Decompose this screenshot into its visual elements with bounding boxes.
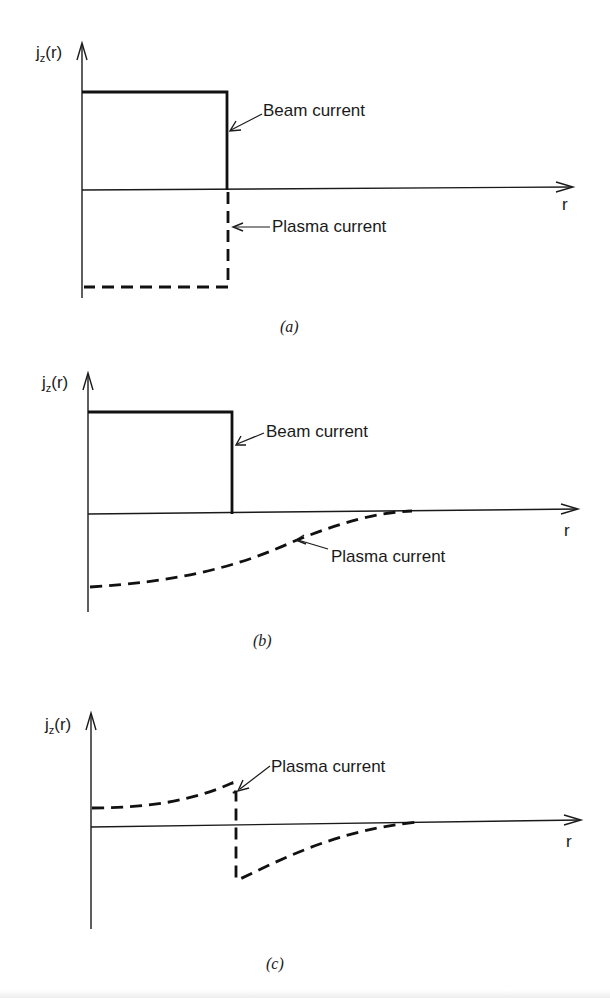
pointer-arrowhead-icon: [238, 780, 249, 791]
plasma-current-pointer: [240, 766, 270, 789]
plasma-current-label: Plasma current: [271, 757, 386, 776]
y-axis-label: jz(r): [41, 373, 68, 394]
beam-current-label: Beam current: [263, 101, 365, 120]
plasma-current-curve: [92, 783, 418, 879]
panel-caption: (c): [266, 955, 284, 973]
beam-current-curve: [82, 92, 227, 190]
r-axis: [91, 820, 580, 827]
plasma-current-curve: [84, 192, 228, 287]
r-axis-label: r: [566, 832, 572, 851]
r-axis-label: r: [562, 195, 568, 214]
panel-a: jz(r) r Beam current Plasma current (a): [35, 43, 573, 336]
y-axis-label: jz(r): [44, 715, 71, 736]
r-axis: [82, 187, 572, 190]
y-axis-label: jz(r): [35, 43, 62, 64]
beam-current-label: Beam current: [266, 422, 368, 441]
panel-caption: (a): [280, 318, 299, 336]
plasma-current-pointer: [298, 540, 328, 549]
panel-caption: (b): [253, 632, 272, 650]
beam-current-curve: [88, 412, 232, 514]
plasma-current-label: Plasma current: [331, 547, 446, 566]
r-axis: [88, 509, 577, 514]
clipped-caption-strip: [0, 990, 610, 998]
plasma-current-label: Plasma current: [272, 217, 387, 236]
panel-b: jz(r) r Plasma current Beam current (b): [41, 373, 578, 650]
current-profile-figure: jz(r) r Beam current Plasma current (a) …: [0, 0, 610, 998]
r-axis-label: r: [564, 521, 570, 540]
beam-current-pointer: [237, 433, 264, 444]
panel-c: jz(r) r Plasma current (c): [44, 713, 581, 973]
